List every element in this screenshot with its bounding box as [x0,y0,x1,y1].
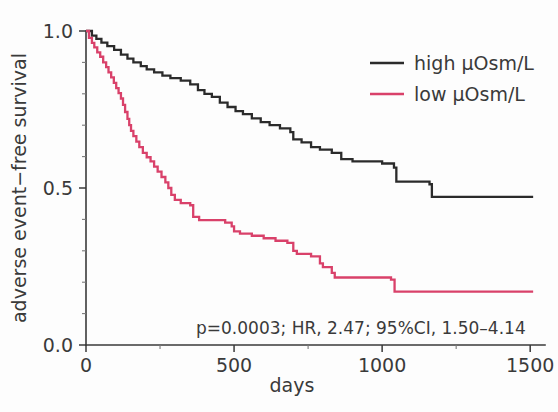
survival-plot: 0.00.51.0 050010001500 adverse event−fre… [0,0,558,412]
legend-label-high-group: high μOsm/L [414,52,534,74]
y-tick-label: 1.0 [43,20,73,42]
x-tick-label: 500 [216,354,252,376]
x-tick-label: 1000 [358,354,406,376]
x-tick-label: 0 [80,354,92,376]
kaplan-meier-figure: 0.00.51.0 050010001500 adverse event−fre… [0,0,558,412]
y-tick-label: 0.0 [43,334,73,356]
y-tick-label: 0.5 [43,177,73,199]
y-axis-title: adverse event−free survival [8,53,30,323]
x-tick-label: 1500 [506,354,554,376]
statistics-annotation: p=0.0003; HR, 2.47; 95%CI, 1.50–4.14 [196,318,526,338]
x-axis-title: days [270,374,315,396]
legend-label-low-group: low μOsm/L [414,83,525,105]
